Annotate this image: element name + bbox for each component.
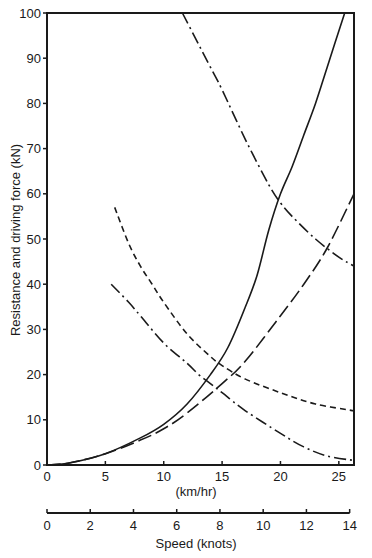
y-tick-label: 0 [34,458,41,473]
knots-tick-label: 0 [43,518,50,533]
y-tick-label: 80 [27,96,41,111]
series-driving-force-short-dash [115,207,354,410]
x-tick-label: 25 [332,469,346,484]
plot-border [47,13,354,465]
series-driving-force-dash-dot-upper [182,13,354,266]
x-tick-label: 20 [273,469,287,484]
y-tick-label: 70 [27,141,41,156]
knots-tick-label: 2 [87,518,94,533]
knots-tick-label: 12 [299,518,313,533]
y-tick-label: 40 [27,277,41,292]
y-tick-label: 60 [27,186,41,201]
y-axis-label: Resistance and driving force (kN) [8,144,23,336]
knots-tick-label: 8 [216,518,223,533]
x-tick-label: 0 [43,469,50,484]
x-axis-label: (km/hr) [175,484,216,499]
knots-tick-label: 14 [342,518,356,533]
knots-tick-label: 4 [130,518,137,533]
knots-tick-label: 10 [256,518,270,533]
x-tick-label: 5 [102,469,109,484]
series-resistance-long-dash [47,194,354,465]
resistance-force-chart: 0102030405060708090100 0510152025 024681… [0,0,372,558]
y-tick-label: 10 [27,412,41,427]
series-resistance-solid [47,13,345,465]
y-tick-label: 50 [27,232,41,247]
knots-axis-label: Speed (knots) [156,536,237,551]
y-axis-ticks: 0102030405060708090100 [19,6,47,473]
y-tick-label: 90 [27,51,41,66]
x-tick-label: 15 [215,469,229,484]
x-tick-label: 10 [156,469,170,484]
y-tick-label: 100 [19,6,41,21]
y-tick-label: 30 [27,322,41,337]
knots-tick-label: 6 [173,518,180,533]
plot-frame [47,13,354,465]
knots-axis: 02468101214 [43,509,357,533]
chart-series [47,13,354,465]
y-tick-label: 20 [27,367,41,382]
